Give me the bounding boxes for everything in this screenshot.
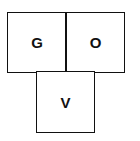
letter-box-g: G	[7, 12, 67, 73]
letter-label: O	[90, 34, 102, 51]
letter-box-v: V	[36, 71, 95, 133]
letter-label: V	[60, 94, 70, 111]
letter-box-o: O	[65, 12, 125, 73]
letter-label: G	[31, 34, 43, 51]
